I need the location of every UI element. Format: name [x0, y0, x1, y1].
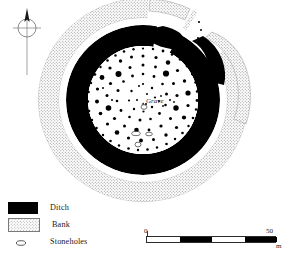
bank-swatch-icon: [8, 218, 40, 232]
ditch-swatch-icon: [8, 202, 38, 214]
scale-bar: 0 50 m: [146, 236, 278, 243]
legend-item-ditch: Ditch: [8, 199, 138, 216]
legend-label-bank: Bank: [52, 220, 70, 229]
legend-item-stoneholes: Stoneholes: [8, 233, 138, 250]
legend: Ditch Bank Stoneholes: [8, 199, 138, 250]
scale-max-label: 50: [266, 227, 273, 235]
legend-label-stoneholes: Stoneholes: [50, 237, 87, 246]
legend-label-ditch: Ditch: [50, 203, 69, 212]
scale-segment-2: [180, 237, 213, 242]
scale-track: [146, 236, 276, 243]
stonehole-swatch-icon: [8, 236, 38, 248]
interior-area: [88, 46, 198, 154]
grave-label: Grave: [146, 97, 164, 105]
scale-segment-4: [245, 237, 278, 242]
legend-item-bank: Bank: [8, 216, 138, 233]
scale-unit-label: m: [276, 242, 281, 250]
